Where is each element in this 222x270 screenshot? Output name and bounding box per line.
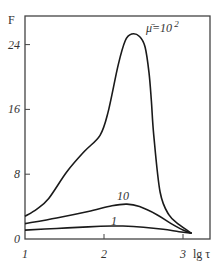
- y-tick-label: 0: [14, 232, 20, 246]
- curve-0: [25, 34, 192, 233]
- y-tick-label: 24: [8, 38, 20, 52]
- chart: 081624123 F lg τ μ̄=102101: [0, 0, 222, 270]
- curve-label: μ̄=102: [145, 19, 179, 35]
- curves: [25, 34, 192, 233]
- x-tick-label: 2: [101, 247, 107, 261]
- axis-ticks: 081624123: [8, 38, 186, 261]
- x-tick-label: 3: [179, 247, 186, 261]
- x-tick-label: 1: [22, 247, 28, 261]
- x-axis-title: lg τ: [193, 247, 210, 261]
- curve-2: [25, 226, 192, 233]
- y-axis-title: F: [8, 13, 15, 27]
- curve-label: 1: [111, 214, 117, 228]
- y-tick-label: 8: [14, 167, 20, 181]
- y-tick-label: 16: [8, 102, 20, 116]
- curve-label: 10: [117, 189, 129, 203]
